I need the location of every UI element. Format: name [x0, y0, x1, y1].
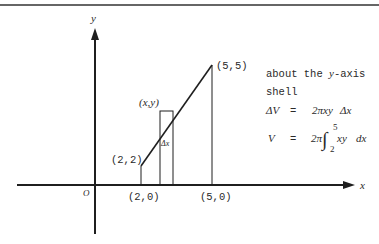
- point-label-5-0: (5,0): [200, 191, 232, 203]
- annotation-about-axis: about the y-axis: [266, 67, 365, 80]
- y-axis: [91, 28, 99, 234]
- y-axis-label: y: [90, 12, 96, 24]
- annotation-volume-integral: V = 2π ∫ 5 2 xy dx: [268, 122, 367, 154]
- annotation-shell: shell: [266, 86, 298, 98]
- svg-text:2π: 2π: [311, 132, 323, 144]
- svg-text:2πxy: 2πxy: [312, 104, 333, 116]
- point-label-5-5: (5,5): [216, 60, 248, 72]
- svg-text:ΔV: ΔV: [265, 104, 280, 116]
- annotation-block: about the y-axis shell ΔV = 2πxy Δx V = …: [265, 67, 367, 154]
- x-axis-arrow-icon: [343, 181, 355, 189]
- origin-label: O: [83, 188, 90, 198]
- svg-text:=: =: [290, 133, 296, 145]
- shell-method-diagram: y x O Δx (2,2) (2,0) (5,5) (5,0) (x,y) a…: [0, 0, 379, 244]
- integral-sign: ∫: [320, 128, 329, 152]
- svg-text:Δx: Δx: [339, 104, 351, 116]
- svg-text:xy: xy: [336, 132, 347, 144]
- point-label-2-2: (2,2): [111, 154, 143, 166]
- svg-text:5: 5: [333, 122, 338, 132]
- y-axis-arrow-icon: [91, 28, 99, 40]
- line-y-equals-x: [141, 65, 212, 166]
- region-outline: [141, 65, 212, 185]
- svg-text:2: 2: [330, 144, 335, 154]
- x-axis: [17, 181, 355, 189]
- point-label-x-y: (x,y): [139, 96, 159, 109]
- annotation-delta-v-formula: ΔV = 2πxy Δx: [265, 104, 351, 117]
- svg-text:=: =: [290, 105, 296, 117]
- x-axis-label: x: [359, 179, 365, 191]
- point-label-2-0: (2,0): [128, 191, 160, 203]
- svg-text:V: V: [268, 132, 276, 144]
- svg-text:dx: dx: [356, 132, 367, 144]
- strip-width-label: Δx: [160, 139, 170, 148]
